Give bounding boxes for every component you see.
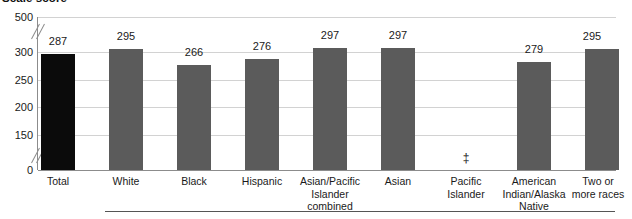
bar-value-total: 287: [24, 36, 92, 47]
bar-value-pacific-islander: ‡: [432, 152, 500, 164]
category-line: White: [92, 175, 160, 188]
category-label-two-or-more-races: Two or more races: [565, 175, 631, 200]
bar-value-asian: 297: [364, 30, 432, 41]
category-label-asian-pacific-islander-combined: Asian/Pacific Islander combined: [290, 175, 370, 213]
bar-value-black: 266: [160, 47, 228, 58]
category-line: Islander: [432, 188, 500, 201]
bar-asian: [381, 48, 415, 170]
y-tick-300: 300: [3, 47, 33, 58]
bar-hispanic: [245, 59, 279, 170]
bar-white: [109, 49, 143, 170]
bar-chart: Scale score 500 300 250 200 150 0 287 29…: [0, 0, 632, 219]
bar-value-two-or-more-races: 295: [558, 31, 626, 42]
bar-black: [177, 65, 211, 170]
category-line: Indian/Alaska: [492, 188, 576, 201]
category-line: Total: [24, 175, 92, 188]
category-line: Islander: [290, 188, 370, 201]
category-label-hispanic: Hispanic: [228, 175, 296, 188]
category-label-asian: Asian: [364, 175, 432, 188]
bar-asian-pacific-islander-combined: [313, 48, 347, 170]
footer-rule: [105, 211, 615, 212]
category-line: Asian: [364, 175, 432, 188]
bar-value-hispanic: 276: [228, 41, 296, 52]
category-label-white: White: [92, 175, 160, 188]
bar-total: [41, 54, 75, 170]
category-line: Hispanic: [228, 175, 296, 188]
category-line: Asian/Pacific: [290, 175, 370, 188]
category-line: Two or: [565, 175, 631, 188]
y-tick-150: 150: [3, 130, 33, 141]
category-line: Pacific: [432, 175, 500, 188]
gridline-500: [38, 17, 616, 18]
y-tick-250: 250: [3, 75, 33, 86]
category-label-american-indian-alaska-native: American Indian/Alaska Native: [492, 175, 576, 213]
category-label-pacific-islander: Pacific Islander: [432, 175, 500, 200]
bar-value-white: 295: [92, 31, 160, 42]
y-tick-500: 500: [3, 12, 33, 23]
bar-american-indian-alaska-native: [517, 62, 551, 170]
category-line: American: [492, 175, 576, 188]
y-tick-200: 200: [3, 102, 33, 113]
bar-value-asian-pacific-islander-combined: 297: [296, 30, 364, 41]
category-label-black: Black: [160, 175, 228, 188]
category-line: more races: [565, 188, 631, 201]
bar-value-american-indian-alaska-native: 279: [500, 44, 568, 55]
x-axis-baseline: [38, 170, 616, 171]
category-label-total: Total: [24, 175, 92, 188]
bar-two-or-more-races: [585, 49, 619, 170]
category-line: Black: [160, 175, 228, 188]
